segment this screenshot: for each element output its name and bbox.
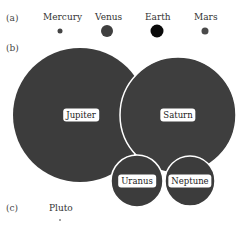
panel-label-b: (b) xyxy=(6,43,19,53)
jupiter-label: Jupiter xyxy=(63,109,99,122)
mercury-label: Mercury xyxy=(43,12,82,22)
mars-label: Mars xyxy=(194,12,218,22)
planet-diagram xyxy=(0,0,246,227)
uranus-label: Uranus xyxy=(118,175,156,188)
pluto-label: Pluto xyxy=(49,203,73,213)
pluto-dot xyxy=(59,219,61,221)
venus-dot xyxy=(101,25,113,37)
mars-dot xyxy=(202,28,209,35)
panel-label-c: (c) xyxy=(6,203,18,213)
saturn-label: Saturn xyxy=(160,109,195,122)
neptune-label: Neptune xyxy=(168,175,211,188)
panel-label-a: (a) xyxy=(6,13,18,23)
mercury-dot xyxy=(58,29,63,34)
terrestrial-planets xyxy=(58,25,209,38)
earth-dot xyxy=(151,25,164,38)
venus-label: Venus xyxy=(95,12,122,22)
earth-label: Earth xyxy=(145,12,171,22)
